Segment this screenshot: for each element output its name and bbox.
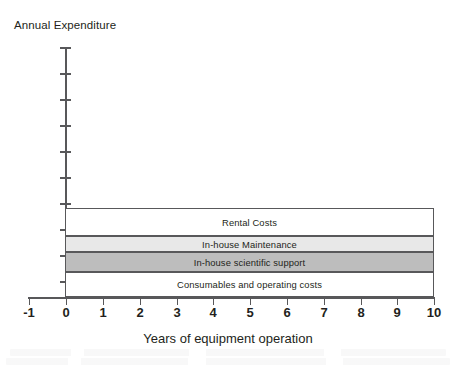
x-axis-tick-label: 7 — [310, 305, 338, 320]
y-axis-title: Annual Expenditure — [14, 19, 116, 31]
x-axis-tick-9 — [361, 298, 362, 305]
x-axis-line — [28, 297, 435, 299]
scan-artifact — [6, 358, 450, 365]
x-axis-tick-5 — [213, 298, 214, 305]
x-axis-tick-label: 10 — [420, 305, 448, 320]
x-axis-tick-4 — [177, 298, 178, 305]
x-axis-tick-0 — [29, 298, 30, 305]
band-label: In-house scientific support — [194, 257, 306, 268]
band-label: Consumables and operating costs — [177, 279, 322, 290]
x-axis-tick-8 — [324, 298, 325, 305]
x-axis-tick-1 — [66, 298, 67, 305]
x-axis-tick-label: 1 — [89, 305, 117, 320]
x-axis-tick-3 — [140, 298, 141, 305]
x-axis-tick-label: 4 — [199, 305, 227, 320]
y-axis-tick-0 — [60, 47, 71, 49]
y-axis-tick-4 — [60, 151, 71, 153]
x-axis-tick-label: 5 — [236, 305, 264, 320]
x-axis-tick-10 — [397, 298, 398, 305]
y-axis-tick-2 — [60, 99, 71, 101]
y-axis-tick-1 — [60, 73, 71, 75]
band-3: Consumables and operating costs — [65, 272, 434, 297]
x-axis-tick-label: 9 — [383, 305, 411, 320]
x-axis-tick-7 — [287, 298, 288, 305]
x-axis-title: Years of equipment operation — [0, 331, 456, 346]
x-axis-tick-11 — [434, 298, 435, 305]
x-axis-tick-label: -1 — [15, 305, 43, 320]
scan-artifact — [10, 349, 446, 356]
x-axis-tick-label: 2 — [126, 305, 154, 320]
x-axis-tick-label: 6 — [273, 305, 301, 320]
y-axis-tick-5 — [60, 177, 71, 179]
band-label: Rental Costs — [222, 217, 277, 228]
y-axis-tick-6 — [60, 203, 71, 205]
band-1: In-house Maintenance — [65, 236, 434, 252]
x-axis-tick-label: 3 — [163, 305, 191, 320]
band-2: In-house scientific support — [65, 252, 434, 272]
x-axis-tick-label: 8 — [347, 305, 375, 320]
band-label: In-house Maintenance — [202, 239, 297, 250]
x-axis-tick-6 — [250, 298, 251, 305]
x-axis-tick-2 — [103, 298, 104, 305]
y-axis-tick-3 — [60, 125, 71, 127]
band-0: Rental Costs — [65, 208, 434, 236]
x-axis-tick-label: 0 — [52, 305, 80, 320]
expenditure-chart: Annual Expenditure -1012345678910 Rental… — [0, 0, 456, 367]
